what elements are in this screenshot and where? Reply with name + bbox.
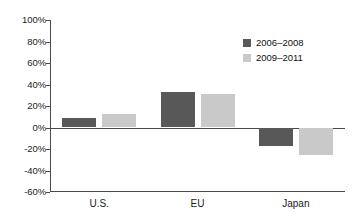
bar xyxy=(299,128,333,156)
y-axis-tick-label: 0% xyxy=(4,123,46,133)
y-axis-tick-mark xyxy=(46,63,50,64)
y-axis-tick-label: -40% xyxy=(4,166,46,176)
y-axis-tick-mark xyxy=(46,20,50,21)
y-axis-tick-mark xyxy=(46,192,50,193)
chart-legend: 2006–20082009–2011 xyxy=(243,36,304,66)
bar xyxy=(102,114,136,128)
legend-item: 2009–2011 xyxy=(243,51,304,64)
y-axis-tick-label: 100% xyxy=(4,15,46,25)
legend-item-label: 2006–2008 xyxy=(256,38,304,48)
y-axis-tick-labels: 100%80%60%40%20%0%-20%-40%-60% xyxy=(0,0,46,223)
legend-swatch-icon xyxy=(243,54,251,62)
y-axis-tick-label: 80% xyxy=(4,37,46,47)
x-axis-tick-label: U.S. xyxy=(59,198,139,209)
y-axis-tick-label: 40% xyxy=(4,80,46,90)
x-axis-tick-label: EU xyxy=(158,198,238,209)
y-axis-line xyxy=(50,20,51,192)
legend-item: 2006–2008 xyxy=(243,36,304,49)
y-axis-tick-mark xyxy=(46,128,50,129)
x-axis-tick-label: Japan xyxy=(256,198,336,209)
y-axis-tick-label: -60% xyxy=(4,187,46,197)
legend-swatch-icon xyxy=(243,39,251,47)
y-axis-tick-label: 20% xyxy=(4,101,46,111)
y-axis-tick-mark xyxy=(46,85,50,86)
bar xyxy=(259,128,293,146)
bar xyxy=(201,94,235,127)
y-axis-tick-label: 60% xyxy=(4,58,46,68)
y-axis-tick-mark xyxy=(46,106,50,107)
y-axis-tick-label: -20% xyxy=(4,144,46,154)
bar xyxy=(62,118,96,128)
bar-chart: 100%80%60%40%20%0%-20%-40%-60% U.S.EUJap… xyxy=(0,0,353,223)
legend-item-label: 2009–2011 xyxy=(256,53,303,63)
x-axis-line xyxy=(50,191,345,192)
y-axis-tick-mark xyxy=(46,171,50,172)
y-axis-tick-mark xyxy=(46,42,50,43)
bar xyxy=(161,92,195,127)
y-axis-tick-mark xyxy=(46,149,50,150)
